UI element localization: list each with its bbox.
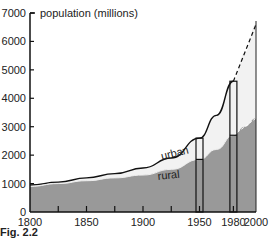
figure-caption: Fig. 2.2 <box>0 226 38 238</box>
rural-label: rural <box>157 168 180 182</box>
y-tick-label: 7000 <box>2 7 26 19</box>
y-tick-label: 1000 <box>2 178 26 190</box>
y-tick-label: 6000 <box>2 35 26 47</box>
y-tick-label: 5000 <box>2 64 26 76</box>
x-tick-label: 1900 <box>131 216 155 228</box>
x-tick-label: 2000 <box>244 216 268 228</box>
chart-title: population (millions) <box>40 7 138 19</box>
x-tick-label: 1850 <box>74 216 98 228</box>
y-tick-label: 3000 <box>2 121 26 133</box>
y-tick-label: 2000 <box>2 149 26 161</box>
x-tick-label: 1980 <box>221 216 245 228</box>
y-tick-label: 4000 <box>2 92 26 104</box>
x-tick-label: 1950 <box>187 216 211 228</box>
population-chart: 0100020003000400050006000700018001850190… <box>0 0 270 238</box>
